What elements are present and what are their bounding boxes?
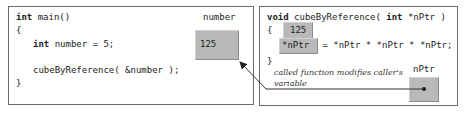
pointer-arrow xyxy=(0,0,468,117)
